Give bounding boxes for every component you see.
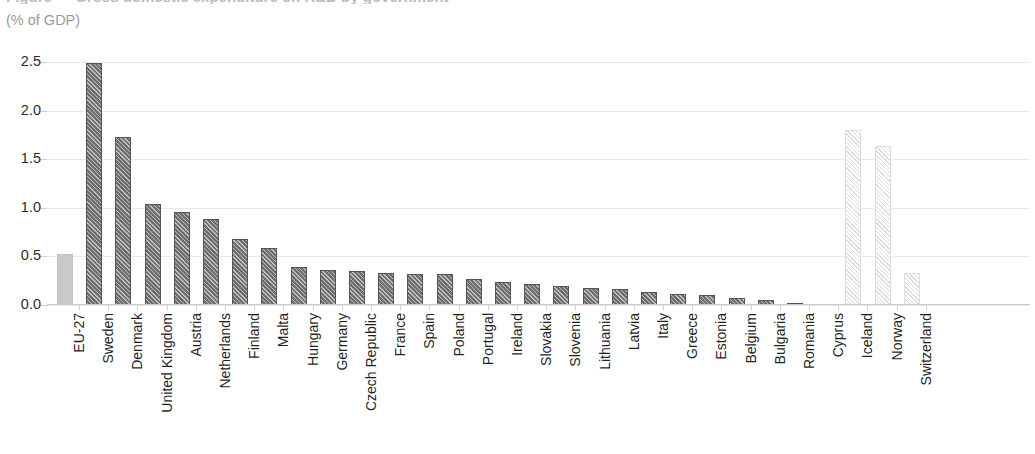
x-axis-tick-mark (137, 305, 138, 310)
chart-title: Figure — Gross domestic expenditure on R… (6, 0, 449, 4)
bar[interactable] (320, 270, 336, 305)
x-axis-category-label: Denmark (129, 313, 145, 370)
x-axis-category-label: Lithuania (597, 313, 613, 370)
x-axis-tick-mark (809, 305, 810, 310)
x-axis-tick-mark (926, 305, 927, 310)
x-axis-tick-mark (459, 305, 460, 310)
x-axis-category-label: Norway (889, 313, 905, 360)
x-axis-tick-mark (634, 305, 635, 310)
x-axis-tick-mark (283, 305, 284, 310)
x-axis-category-label: EU-27 (71, 313, 87, 353)
bar[interactable] (145, 204, 161, 305)
x-axis-category-label: Finland (246, 313, 262, 359)
x-axis-category-label: Cyprus (830, 313, 846, 357)
bar[interactable] (86, 63, 102, 305)
bar[interactable] (291, 267, 307, 305)
x-axis-tick-mark (575, 305, 576, 310)
bar[interactable] (407, 274, 423, 305)
y-axis-tick-label: 2.5 (7, 53, 41, 69)
bar[interactable] (57, 254, 73, 305)
x-axis-tick-mark (897, 305, 898, 310)
y-axis-tick-label: 0.5 (7, 247, 41, 263)
bar[interactable] (904, 273, 920, 305)
x-axis-tick-mark (371, 305, 372, 310)
x-axis-tick-mark (838, 305, 839, 310)
bar[interactable] (875, 146, 891, 305)
chart-subtitle: (% of GDP) (6, 12, 80, 28)
gridline (47, 111, 1030, 112)
x-axis-tick-mark (488, 305, 489, 310)
x-axis-tick-mark (721, 305, 722, 310)
x-axis-tick-mark (692, 305, 693, 310)
x-axis-category-label: Hungary (305, 313, 321, 366)
x-axis-tick-mark (867, 305, 868, 310)
x-axis-tick-mark (167, 305, 168, 310)
x-axis-tick-mark (605, 305, 606, 310)
bar[interactable] (524, 284, 540, 305)
x-axis-category-label: Belgium (743, 313, 759, 364)
x-axis-tick-mark (342, 305, 343, 310)
bar[interactable] (261, 248, 277, 305)
bar[interactable] (115, 137, 131, 305)
x-axis-tick-mark (225, 305, 226, 310)
x-axis-tick-mark (663, 305, 664, 310)
bar[interactable] (612, 289, 628, 305)
x-axis-category-label: United Kingdom (159, 313, 175, 413)
x-axis-category-label: Switzerland (918, 313, 934, 385)
x-axis-baseline (47, 304, 1030, 305)
x-axis-tick-mark (196, 305, 197, 310)
bar[interactable] (553, 286, 569, 305)
bar[interactable] (495, 282, 511, 305)
bar[interactable] (349, 271, 365, 305)
x-axis-category-label: Slovakia (538, 313, 554, 366)
x-axis-category-label: France (392, 313, 408, 357)
x-axis-tick-mark (254, 305, 255, 310)
y-axis-tick-label: 1.0 (7, 199, 41, 215)
x-axis-category-label: Czech Republic (363, 313, 379, 411)
y-axis-tick-label: 1.5 (7, 150, 41, 166)
x-axis-tick-mark (429, 305, 430, 310)
x-axis-category-label: Slovenia (567, 313, 583, 367)
gridline (47, 305, 1030, 306)
x-axis-category-label: Germany (334, 313, 350, 371)
x-axis-category-label: Austria (188, 313, 204, 357)
bar[interactable] (845, 130, 861, 305)
x-axis-category-label: Iceland (859, 313, 875, 358)
bar[interactable] (378, 273, 394, 305)
x-axis-category-label: Sweden (100, 313, 116, 364)
bar[interactable] (174, 212, 190, 305)
x-axis-category-label: Bulgaria (772, 313, 788, 364)
x-axis-category-label: Poland (451, 313, 467, 357)
bar[interactable] (232, 239, 248, 305)
x-axis-category-label: Spain (421, 313, 437, 349)
x-axis-tick-mark (400, 305, 401, 310)
x-axis-category-label: Ireland (509, 313, 525, 356)
x-axis-tick-mark (546, 305, 547, 310)
x-axis-category-label: Latvia (626, 313, 642, 350)
x-axis-tick-mark (751, 305, 752, 310)
x-axis-category-label: Estonia (713, 313, 729, 360)
x-axis-category-label: Portugal (480, 313, 496, 365)
bar[interactable] (437, 274, 453, 305)
chart-page: Figure — Gross domestic expenditure on R… (0, 0, 1035, 454)
x-axis-category-label: Greece (684, 313, 700, 359)
x-axis-tick-mark (780, 305, 781, 310)
y-axis: 0.00.51.01.52.02.5 (0, 62, 41, 305)
x-axis-tick-mark (517, 305, 518, 310)
y-axis-tick-label: 2.0 (7, 102, 41, 118)
x-axis-tick-mark (313, 305, 314, 310)
x-axis-category-label: Romania (801, 313, 817, 369)
bar[interactable] (466, 279, 482, 305)
bar[interactable] (203, 219, 219, 305)
bar[interactable] (583, 288, 599, 305)
x-axis-tick-mark (79, 305, 80, 310)
y-axis-tick-label: 0.0 (7, 296, 41, 312)
gridline (47, 62, 1030, 63)
x-axis-category-label: Italy (655, 313, 671, 339)
x-axis-category-label: Netherlands (217, 313, 233, 389)
x-axis-category-label: Malta (275, 313, 291, 347)
x-axis-tick-mark (108, 305, 109, 310)
plot-area (47, 62, 1030, 305)
